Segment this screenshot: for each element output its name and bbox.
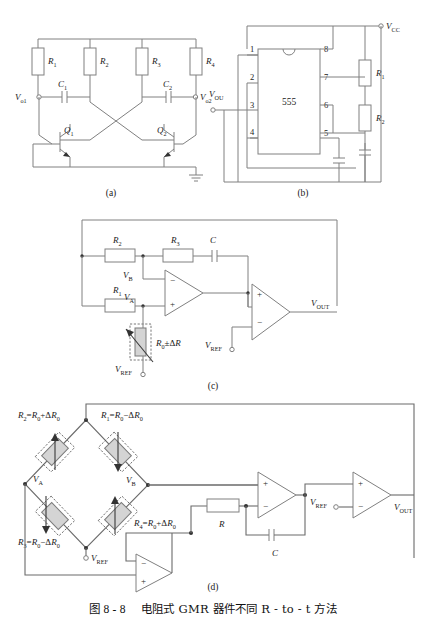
resistor-d-r — [207, 499, 239, 512]
panel-b-label: (b) — [297, 188, 308, 199]
resistor-c-r3 — [163, 249, 193, 262]
resistor-r4 — [190, 48, 202, 75]
transistor-q1-label: Q1 — [64, 125, 74, 137]
resistor-c-r3-label: R3 — [170, 235, 180, 247]
panel-c-label: (c) — [208, 381, 219, 392]
opamp-c2-inverting-sign: − — [257, 317, 262, 327]
node-vo1-label: Vo1 — [15, 92, 27, 104]
terminal-c-vref-comparator[interactable] — [230, 347, 234, 351]
node-d-vb-label: VB — [126, 475, 136, 487]
resistor-b-r2 — [359, 105, 371, 131]
panel-a: R1 R2 R3 R4 C1 Vo1 C2 Vo2 — [15, 39, 215, 199]
gmr-resistor-c — [126, 324, 153, 362]
opamp-d-buffer-noninverting-sign: + — [141, 576, 146, 586]
figure-caption-text: 电阻式 GMR 器件不同 R - to - t 方法 — [141, 602, 337, 616]
resistor-r3 — [136, 48, 148, 75]
opamp-d-buffer: − + — [136, 554, 172, 592]
terminal-c-vref-bottom[interactable] — [141, 372, 145, 376]
ground-icon-a — [189, 175, 203, 181]
opamp-d-comparator: + − — [353, 472, 391, 518]
pin-2-label: 2 — [250, 72, 254, 82]
c-vout-label: VOUT — [311, 298, 329, 310]
d-vref-bridge-label: VREF — [91, 553, 108, 565]
pin-4-label: 4 — [250, 127, 255, 137]
pin-3-label: 3 — [250, 100, 254, 110]
opamp-c2-noninverting-sign: + — [257, 289, 262, 299]
d-vout-label: VOUT — [394, 502, 412, 514]
opamp-c1-inverting-sign: − — [170, 275, 175, 285]
panel-a-label: (a) — [106, 188, 117, 199]
resistor-c-r2-label: R2 — [112, 235, 122, 247]
resistor-r2-label: R2 — [99, 56, 109, 68]
bridge-arm-r4-label: R4=R0+ΔR0 — [133, 518, 176, 530]
c-vref-bottom-label: VREF — [115, 364, 132, 376]
figure-container: R1 R2 R3 R4 C1 Vo1 C2 Vo2 — [0, 0, 426, 625]
terminal-vou[interactable] — [211, 108, 215, 112]
panel-c: R2 R3 C VB R1 VA − + — [80, 220, 337, 392]
bridge-arm-r1-label: R1=R0−ΔR0 — [100, 410, 143, 422]
resistor-b-r1-label: R1 — [375, 68, 385, 80]
bridge-arm-r3-label: R3=R0−ΔR0 — [17, 537, 60, 549]
supply-vcc-label: VCC — [386, 21, 400, 33]
node-d-va-label: VA — [33, 474, 44, 486]
d-vref-comparator-label: VREF — [310, 497, 327, 509]
opamp-d-integrator-noninverting-sign: + — [263, 478, 268, 488]
figure-caption: 图 8 - 8 电阻式 GMR 器件不同 R - to - t 方法 — [0, 600, 426, 616]
transistor-q2 — [164, 124, 183, 167]
resistor-r4-label: R4 — [205, 56, 215, 68]
resistor-b-r2-label: R2 — [375, 113, 385, 125]
transistor-q2-label: Q2 — [157, 125, 167, 137]
pin-1-label: 1 — [250, 44, 254, 54]
resistor-r1 — [32, 48, 44, 75]
opamp-d-buffer-inverting-sign: − — [141, 558, 146, 568]
opamp-c1: − + — [165, 270, 203, 316]
panel-b: 555 1 2 3 4 5 6 7 8 VCC R1 R2 — [209, 21, 400, 199]
resistor-c-r1-label: R1 — [112, 285, 122, 297]
output-vou-label: VOU — [209, 89, 224, 101]
panel-d-label: (d) — [207, 582, 218, 593]
opamp-d-integrator-inverting-sign: − — [263, 501, 268, 511]
capacitor-d-label: C — [272, 548, 279, 558]
opamp-d-integrator: + − — [258, 472, 296, 518]
resistor-r1-label: R1 — [47, 56, 57, 68]
opamp-c2: + − — [252, 284, 290, 340]
resistor-b-r1 — [359, 60, 371, 86]
node-vb-label: VB — [123, 270, 133, 282]
gmr-arm-r1 — [98, 432, 137, 472]
terminal-d-vref-bridge[interactable] — [84, 556, 89, 561]
resistor-r3-label: R3 — [151, 56, 161, 68]
resistor-c-r2 — [105, 249, 135, 262]
circuit-diagram-svg: R1 R2 R3 R4 C1 Vo1 C2 Vo2 — [0, 0, 426, 625]
opamp-d-comparator-noninverting-sign: + — [358, 478, 363, 488]
figure-caption-prefix: 图 8 - 8 — [89, 603, 125, 615]
terminal-d-vref-comparator[interactable] — [334, 505, 339, 510]
bridge-arm-r2-label: R2=R0+ΔR0 — [17, 410, 60, 422]
c-vref-comparator-label: VREF — [205, 340, 222, 352]
opamp-c1-noninverting-sign: + — [170, 299, 175, 309]
panel-d: R2=R0+ΔR0 R1=R0−ΔR0 R3=R0−ΔR0 — [17, 404, 414, 593]
capacitor-c2-label: C2 — [163, 79, 172, 91]
capacitor-c-label: C — [210, 235, 217, 245]
opamp-d-comparator-inverting-sign: − — [358, 501, 363, 511]
capacitor-c1-label: C1 — [58, 79, 67, 91]
node-va-label: VA — [124, 292, 135, 304]
resistor-r2 — [84, 48, 96, 75]
ic-555-label: 555 — [282, 97, 297, 107]
resistor-d-r-label: R — [218, 519, 225, 529]
gmr-element-label: R0±ΔR — [155, 338, 181, 350]
